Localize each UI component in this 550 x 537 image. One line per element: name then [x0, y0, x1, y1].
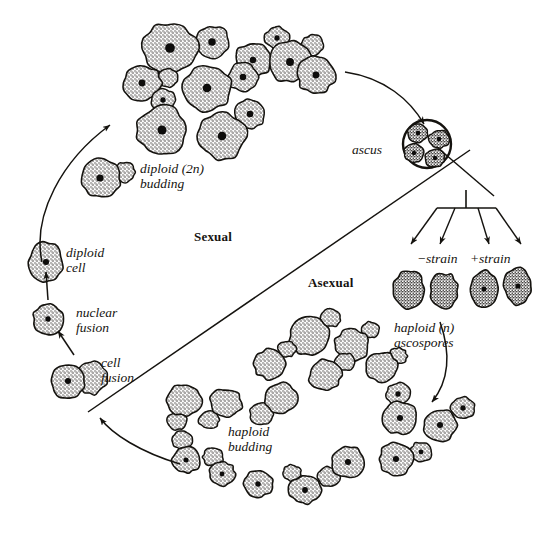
haploid-budding-cell-bud	[450, 397, 475, 419]
haploid-budding-cell	[209, 462, 236, 487]
nuclear-fusion-cell	[33, 304, 64, 335]
label-haploid-budding: haploid budding	[228, 424, 272, 454]
strain-divider-line	[438, 148, 494, 196]
haploid-budding-cell	[171, 446, 200, 473]
label-diploid-cell: diploid cell	[66, 245, 104, 275]
haploid-budding-cell	[332, 447, 364, 478]
label-minus-strain: −strain	[417, 251, 458, 266]
diploid-budding-cell	[182, 66, 232, 113]
haploid-budding-cell	[379, 442, 414, 476]
haploid-budding-cell	[166, 385, 202, 416]
yeast-life-cycle-figure: diploid (2n) budding Sexual Asexual dipl…	[0, 0, 550, 537]
ascospore-minus	[393, 271, 424, 309]
diploid-budding-cell	[81, 158, 120, 197]
label-diploid-budding: diploid (2n) budding	[140, 161, 204, 191]
haploid-budding-cell	[288, 476, 322, 505]
diploid-budding-cell	[142, 24, 200, 74]
fan-arrow-3	[478, 208, 489, 244]
label-cell-fusion: cell fusion	[101, 355, 134, 385]
label-haploid-ascospores: haploid (n) ascospores	[394, 320, 454, 350]
label-nuclear-fusion: nuclear fusion	[76, 305, 117, 335]
arrow-cell-fusion-to-nuclear-fusion	[58, 331, 74, 355]
cell-fusion-pair	[51, 365, 84, 398]
haploid-budding-cell	[382, 401, 416, 435]
fan-arrow-2	[440, 208, 455, 244]
haploid-budding-cell	[424, 410, 458, 442]
fan-arrow-4	[496, 208, 521, 244]
haploid-budding-cell	[210, 390, 243, 418]
label-plus-strain: +strain	[470, 251, 511, 266]
label-ascus: ascus	[352, 142, 382, 157]
fan-arrow-1	[411, 208, 437, 244]
ascospore-release-bracket	[411, 190, 521, 244]
label-sexual: Sexual	[194, 230, 232, 245]
arrow-diploid-cell-to-ascus	[345, 72, 424, 124]
diploid-cell-pre-meiosis	[297, 56, 336, 93]
diploid-budding-cell-bud	[195, 27, 229, 59]
diploid-budding-cell	[136, 105, 186, 154]
haploid-budding-cell	[243, 471, 273, 498]
label-asexual: Asexual	[308, 276, 353, 291]
haploid-budding-cell	[265, 382, 298, 414]
ascospore-plus	[503, 267, 531, 305]
ascus-with-ascospores	[403, 120, 451, 168]
ascospore-minus	[430, 274, 458, 309]
ascospore-plus	[470, 270, 498, 308]
haploid-budding-cell	[366, 353, 398, 383]
